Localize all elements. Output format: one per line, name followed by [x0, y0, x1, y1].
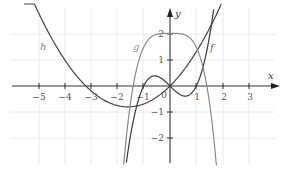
x-tick-label: −5: [32, 92, 46, 102]
x-tick-label: 1: [194, 92, 200, 102]
y-axis-label: y: [174, 8, 181, 19]
x-tick-label: 3: [247, 92, 253, 102]
function-graph: −5 −4 −3 −2 −1 0 1 2 3 2 1 −1 −2 x y h g…: [0, 0, 296, 176]
x-tick-labels: −5 −4 −3 −2 −1 0 1 2 3: [32, 90, 253, 102]
curve-f-label: f: [209, 42, 216, 53]
y-tick-label: 1: [158, 55, 164, 65]
x-tick-label: −4: [58, 92, 72, 102]
x-axis-label: x: [268, 70, 274, 81]
x-tick-label: −3: [84, 92, 98, 102]
curve-h-label: h: [40, 41, 46, 52]
y-axis-arrow-icon: [167, 8, 173, 17]
curve-g-label: g: [133, 41, 139, 52]
y-tick-label: −1: [151, 107, 164, 117]
x-axis-arrow-icon: [271, 83, 280, 89]
y-tick-label: −2: [151, 133, 164, 143]
x-tick-label: 2: [221, 92, 227, 102]
x-tick-label: −2: [110, 92, 123, 102]
